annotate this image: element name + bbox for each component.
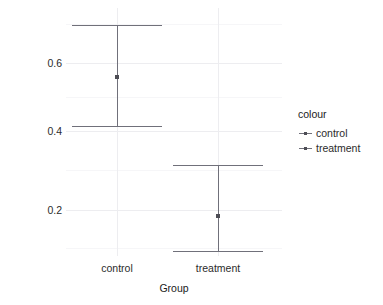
legend: colour control treatment: [298, 108, 380, 156]
y-tick-label-0-2: 0.2: [28, 204, 62, 216]
gridline-y-0-5-minor: [66, 97, 282, 98]
legend-key-pointrange-icon: [298, 126, 313, 141]
data-point-treatment: [216, 214, 220, 218]
y-tick-label-0-6: 0.6: [28, 57, 62, 69]
data-point-control: [115, 75, 119, 79]
legend-label-control: control: [316, 127, 348, 140]
gridline-y-0-2: [66, 210, 282, 211]
y-tick-label-0-4: 0.4: [28, 125, 62, 137]
chart-figure: Proportion who reoffended at follow-up 0…: [0, 0, 383, 305]
x-axis-title: Group: [66, 282, 282, 294]
legend-item-treatment[interactable]: treatment: [298, 141, 380, 156]
plot-panel: [66, 8, 282, 256]
gridline-y-0-4: [66, 131, 282, 132]
x-tick-label-treatment: treatment: [196, 262, 240, 274]
legend-key-pointrange-icon: [298, 141, 313, 156]
whisker-line-treatment: [218, 165, 219, 251]
legend-label-treatment: treatment: [316, 142, 360, 155]
gridline-y-0-6: [66, 63, 282, 64]
whisker-cap-lower-control: [72, 126, 162, 127]
x-tick-label-control: control: [101, 262, 133, 274]
legend-title: colour: [298, 108, 380, 121]
y-axis-tick-labels: 0.6 0.4 0.2: [22, 0, 62, 305]
gridline-y-0-1-minor: [66, 248, 282, 249]
legend-item-control[interactable]: control: [298, 126, 380, 141]
whisker-cap-lower-treatment: [173, 251, 263, 252]
gridline-y-0-3-minor: [66, 170, 282, 171]
